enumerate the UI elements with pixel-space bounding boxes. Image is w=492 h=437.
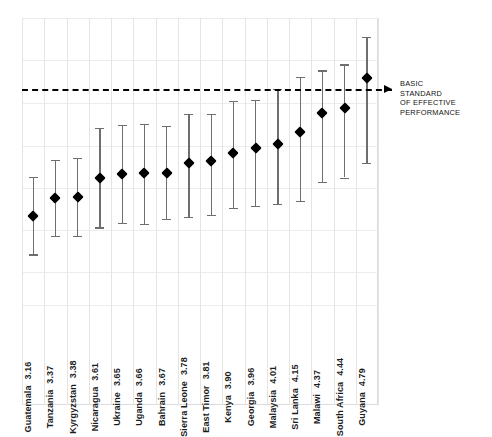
category-value: 4.15 [290,364,300,382]
annotation-line-4: PERFORMANCE [400,108,460,118]
error-bar-cap-lower [73,236,82,237]
category-value: 3.38 [68,360,78,378]
data-point-group[interactable] [67,18,89,305]
data-marker[interactable] [50,192,61,203]
category-label-cell: Kyrgyzstan3.38 [67,305,89,405]
data-point-group[interactable] [200,18,222,305]
data-point-group[interactable] [133,18,155,305]
error-bar-cap-lower [229,208,238,209]
data-marker[interactable] [116,169,127,180]
category-name: Georgia [246,392,256,427]
error-bar-cap-upper [51,160,60,161]
vertical-gridline [378,305,379,405]
data-marker[interactable] [139,168,150,179]
data-marker[interactable] [250,142,261,153]
category-name: Sierra Leone [179,381,189,437]
data-point-group[interactable] [178,18,200,305]
data-point-group[interactable] [334,18,356,305]
error-bar-cap-lower [251,206,260,207]
category-value: 4.44 [335,358,345,376]
category-name: Tanzania [45,390,55,429]
data-point-group[interactable] [267,18,289,305]
annotation-line-2: STANDARD [400,89,460,99]
error-bar-cap-lower [340,178,349,179]
annotation-line-1: BASIC [400,79,460,89]
data-point-group[interactable] [111,18,133,305]
category-label: Sri Lanka4.15 [290,364,300,429]
error-bar-cap-lower [296,201,305,202]
category-label: Bahrain3.67 [157,368,167,426]
error-bar-cap-upper [207,114,216,115]
plot-area [22,18,378,305]
data-marker[interactable] [339,102,350,113]
data-marker[interactable] [272,138,283,149]
error-bar-cap-upper [229,101,238,102]
error-bar-cap-lower [29,254,38,255]
data-marker[interactable] [183,158,194,169]
error-bar [366,37,367,164]
annotation-line-3: OF EFFECTIVE [400,98,460,108]
data-point-group[interactable] [22,18,44,305]
category-label: Guatemala3.16 [23,362,33,433]
error-bar-cap-lower [140,224,149,225]
vertical-gridline [378,18,379,305]
category-value: 4.79 [357,368,367,386]
data-marker[interactable] [361,72,372,83]
category-value: 3.16 [23,362,33,380]
category-label-cell: Sri Lanka4.15 [289,305,311,405]
category-label-cell: Malawi4.37 [311,305,333,405]
category-label-cell: Kenya3.90 [222,305,244,405]
error-bar-cap-upper [362,37,371,38]
data-marker[interactable] [27,210,38,221]
error-bar-cap-upper [118,125,127,126]
category-label: Tanzania3.37 [45,366,55,429]
category-value: 4.01 [268,366,278,384]
error-bar-cap-lower [118,223,127,224]
data-point-group[interactable] [44,18,66,305]
category-label: Kenya3.90 [223,371,233,422]
category-label: South Africa4.44 [335,358,345,436]
data-marker[interactable] [205,155,216,166]
category-name: Kyrgyzstan [68,384,78,434]
category-label: Nicaragua3.61 [90,363,100,431]
data-point-group[interactable] [89,18,111,305]
threshold-arrow-icon [384,85,392,93]
category-name: Bahrain [157,392,167,426]
error-bar-cap-upper [140,124,149,125]
data-marker[interactable] [317,108,328,119]
category-label-cell: Ukraine3.65 [111,305,133,405]
category-label: Sierra Leone3.78 [179,357,189,437]
data-marker[interactable] [94,172,105,183]
category-name: Uganda [134,392,144,426]
category-label-cell: Uganda3.66 [133,305,155,405]
category-label-cell: Guyana4.79 [356,305,378,405]
category-value: 3.37 [45,366,55,384]
data-point-group[interactable] [289,18,311,305]
category-label: Ukraine3.65 [112,368,122,426]
error-bar-cap-lower [51,236,60,237]
data-marker[interactable] [72,191,83,202]
data-point-group[interactable] [356,18,378,305]
data-marker[interactable] [228,147,239,158]
data-point-group[interactable] [245,18,267,305]
category-value: 3.66 [134,368,144,386]
category-value: 3.65 [112,368,122,386]
error-bar-cap-lower [273,204,282,205]
category-label-cell: East Timor3.81 [200,305,222,405]
error-bar-cap-upper [95,128,104,129]
data-point-group[interactable] [311,18,333,305]
data-point-group[interactable] [222,18,244,305]
category-label-cell: Tanzania3.37 [44,305,66,405]
category-label-cell: Nicaragua3.61 [89,305,111,405]
data-marker[interactable] [161,167,172,178]
category-label-cell: Sierra Leone3.78 [178,305,200,405]
category-name: Guatemala [23,386,33,433]
data-marker[interactable] [294,126,305,137]
data-point-group[interactable] [156,18,178,305]
category-value: 3.96 [246,368,256,386]
category-value: 3.67 [157,368,167,386]
threshold-line [22,89,392,91]
category-label-cell: Guatemala3.16 [22,305,44,405]
error-bar-cap-upper [162,126,171,127]
category-value: 3.90 [223,371,233,389]
